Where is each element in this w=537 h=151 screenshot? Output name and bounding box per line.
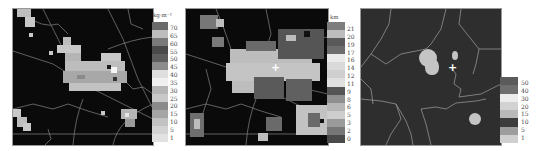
echo-cell [57,45,81,53]
echo-cell [125,119,135,127]
colorbar-tick-label: 10 [521,119,529,125]
echo-cell [13,109,21,117]
colorbar-tick-label: 0 [347,136,355,142]
echo-cell [25,17,35,27]
colorbar-swatch [152,86,168,94]
vil-map-panel [12,8,154,146]
colorbar-swatch [327,95,345,103]
colorbar-swatch [500,102,518,110]
colorbar-tick-label: 40 [170,72,178,78]
station-cross-marker: + [448,62,457,73]
colorbar-swatch [152,38,168,46]
colorbar-swatch [327,22,345,30]
echo-cell [49,51,53,55]
vil-colorbar-unit: kg·m⁻² [153,12,172,18]
colorbar-swatch [327,30,345,38]
colorbar-swatch [327,127,345,135]
colorbar-swatch [327,62,345,70]
colorbar-swatch [152,126,168,134]
echo-cell [246,41,276,51]
echo-top-colorbar-unit: km [330,14,339,20]
colorbar-tick-label: 16 [347,57,355,63]
echo-blob [452,51,458,60]
colorbar-tick-label: 5 [347,112,355,118]
echo-cell [278,29,324,59]
third-field-colorbar [500,77,518,143]
colorbar-tick-label: 8 [347,97,355,103]
colorbar-tick-label: 30 [170,88,178,94]
colorbar-tick-label: 9 [347,89,355,95]
colorbar-swatch [500,77,518,85]
third-field-colorbar-ticks: 50403020151051 [521,80,529,141]
colorbar-swatch [500,110,518,118]
echo-cell [216,19,224,27]
colorbar-tick-label: 30 [521,96,529,102]
colorbar-tick-label: 12 [347,73,355,79]
echo-cell [69,83,121,91]
echo-cell [63,71,127,83]
colorbar-swatch [327,46,345,54]
echo-cell [304,31,310,37]
echo-cell [194,119,200,129]
echo-cell [286,35,296,41]
colorbar-tick-label: 19 [347,42,355,48]
colorbar-tick-label: 45 [170,64,178,70]
colorbar-swatch [500,94,518,102]
colorbar-tick-label: 10 [170,119,178,125]
colorbar-swatch [327,87,345,95]
colorbar-tick-label: 5 [170,127,178,133]
echo-cell [23,123,31,131]
echo-blob [469,113,481,125]
colorbar-swatch [327,54,345,62]
boundary-lines [361,9,501,145]
colorbar-swatch [327,119,345,127]
colorbar-swatch [152,62,168,70]
colorbar-tick-label: 50 [170,56,178,62]
echo-cell [125,113,129,117]
colorbar-tick-label: 20 [170,103,178,109]
colorbar-tick-label: 11 [347,81,355,87]
echo-cell [121,109,137,119]
echo-cell [77,75,85,79]
colorbar-tick-label: 17 [347,50,355,56]
station-cross-marker: + [271,62,280,73]
colorbar-swatch [152,46,168,54]
colorbar-tick-label: 55 [170,49,178,55]
colorbar-swatch [327,38,345,46]
third-field-map-panel: + [360,8,502,146]
colorbar-swatch [152,110,168,118]
colorbar-tick-label: 50 [521,80,529,86]
colorbar-tick-label: 25 [170,96,178,102]
colorbar-tick-label: 1 [521,135,529,141]
echo-top-colorbar-ticks: 21201917161412119865320 [347,26,355,142]
colorbar-swatch [500,85,518,93]
colorbar-swatch [152,70,168,78]
colorbar-tick-label: 6 [347,104,355,110]
colorbar-swatch [152,94,168,102]
colorbar-tick-label: 35 [170,80,178,86]
colorbar-swatch [152,134,168,142]
echo-cell [101,53,121,61]
echo-cell [17,9,31,17]
vil-colorbar-ticks: 7065605550454035302520151051 [170,25,178,141]
colorbar-swatch [152,102,168,110]
echo-cell [308,113,320,127]
colorbar-swatch [327,70,345,78]
colorbar-tick-label: 20 [521,104,529,110]
echo-cell [111,67,117,73]
colorbar-tick-label: 40 [521,88,529,94]
colorbar-tick-label: 15 [170,111,178,117]
echo-cell [101,111,105,115]
echo-cell [286,79,312,101]
colorbar-swatch [500,127,518,135]
echo-blob [425,59,439,75]
colorbar-swatch [327,111,345,119]
colorbar-tick-label: 15 [521,111,529,117]
vil-colorbar [152,22,168,142]
colorbar-swatch [327,103,345,111]
echo-cell [266,117,282,131]
echo-cell [212,37,224,47]
colorbar-tick-label: 65 [170,33,178,39]
colorbar-tick-label: 14 [347,65,355,71]
colorbar-tick-label: 1 [170,135,178,141]
